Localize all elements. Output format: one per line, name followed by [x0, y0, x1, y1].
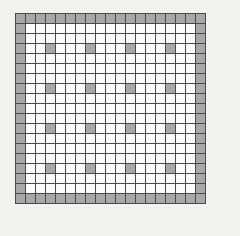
grid-cell-8-7[interactable]	[86, 94, 96, 104]
grid-cell-6-11[interactable]	[126, 74, 136, 84]
grid-cell-2-7[interactable]	[86, 34, 96, 44]
grid-cell-16-8[interactable]	[96, 174, 106, 184]
grid-cell-15-17[interactable]	[186, 164, 196, 174]
grid-cell-17-18[interactable]	[196, 184, 206, 194]
grid-cell-12-2[interactable]	[36, 134, 46, 144]
grid-cell-18-6[interactable]	[76, 194, 86, 204]
grid-cell-14-4[interactable]	[56, 154, 66, 164]
grid-cell-8-1[interactable]	[26, 94, 36, 104]
grid-cell-3-8[interactable]	[96, 44, 106, 54]
grid-cell-0-13[interactable]	[146, 14, 156, 24]
grid-cell-10-16[interactable]	[176, 114, 186, 124]
grid-cell-16-10[interactable]	[116, 174, 126, 184]
grid-cell-5-7[interactable]	[86, 64, 96, 74]
grid-cell-18-11[interactable]	[126, 194, 136, 204]
grid-cell-1-16[interactable]	[176, 24, 186, 34]
grid-cell-6-18[interactable]	[196, 74, 206, 84]
grid-cell-18-18[interactable]	[196, 194, 206, 204]
grid-cell-6-4[interactable]	[56, 74, 66, 84]
grid-cell-6-6[interactable]	[76, 74, 86, 84]
grid-cell-10-15[interactable]	[166, 114, 176, 124]
grid-cell-1-12[interactable]	[136, 24, 146, 34]
grid-cell-11-16[interactable]	[176, 124, 186, 134]
grid-cell-5-17[interactable]	[186, 64, 196, 74]
grid-cell-2-18[interactable]	[196, 34, 206, 44]
grid-cell-4-4[interactable]	[56, 54, 66, 64]
grid-cell-3-12[interactable]	[136, 44, 146, 54]
grid-cell-12-15[interactable]	[166, 134, 176, 144]
grid-cell-11-17[interactable]	[186, 124, 196, 134]
grid-cell-5-9[interactable]	[106, 64, 116, 74]
grid-cell-1-14[interactable]	[156, 24, 166, 34]
grid-cell-7-2[interactable]	[36, 84, 46, 94]
grid-cell-8-13[interactable]	[146, 94, 156, 104]
grid-cell-15-1[interactable]	[26, 164, 36, 174]
grid-cell-18-12[interactable]	[136, 194, 146, 204]
grid-cell-14-0[interactable]	[16, 154, 26, 164]
grid-cell-9-4[interactable]	[56, 104, 66, 114]
grid-cell-12-5[interactable]	[66, 134, 76, 144]
grid-cell-5-6[interactable]	[76, 64, 86, 74]
grid-cell-14-11[interactable]	[126, 154, 136, 164]
grid-cell-0-14[interactable]	[156, 14, 166, 24]
grid-cell-17-9[interactable]	[106, 184, 116, 194]
grid-cell-17-8[interactable]	[96, 184, 106, 194]
grid-cell-2-6[interactable]	[76, 34, 86, 44]
grid-cell-16-2[interactable]	[36, 174, 46, 184]
grid-cell-6-0[interactable]	[16, 74, 26, 84]
grid-cell-0-5[interactable]	[66, 14, 76, 24]
grid-cell-7-8[interactable]	[96, 84, 106, 94]
grid-cell-6-10[interactable]	[116, 74, 126, 84]
grid-cell-10-0[interactable]	[16, 114, 26, 124]
grid-cell-14-10[interactable]	[116, 154, 126, 164]
grid-cell-4-2[interactable]	[36, 54, 46, 64]
grid-cell-11-3[interactable]	[46, 124, 56, 134]
grid-cell-13-13[interactable]	[146, 144, 156, 154]
grid-cell-2-1[interactable]	[26, 34, 36, 44]
grid-cell-18-17[interactable]	[186, 194, 196, 204]
grid-cell-16-14[interactable]	[156, 174, 166, 184]
grid-cell-14-16[interactable]	[176, 154, 186, 164]
grid-cell-4-11[interactable]	[126, 54, 136, 64]
grid-cell-10-10[interactable]	[116, 114, 126, 124]
grid-cell-16-6[interactable]	[76, 174, 86, 184]
grid-cell-8-15[interactable]	[166, 94, 176, 104]
grid-cell-11-5[interactable]	[66, 124, 76, 134]
grid-cell-12-14[interactable]	[156, 134, 166, 144]
grid-cell-14-14[interactable]	[156, 154, 166, 164]
grid-cell-13-17[interactable]	[186, 144, 196, 154]
grid-cell-18-5[interactable]	[66, 194, 76, 204]
grid-cell-7-3[interactable]	[46, 84, 56, 94]
grid-cell-13-12[interactable]	[136, 144, 146, 154]
grid-cell-4-6[interactable]	[76, 54, 86, 64]
grid-cell-0-10[interactable]	[116, 14, 126, 24]
grid-cell-5-10[interactable]	[116, 64, 126, 74]
grid-cell-15-5[interactable]	[66, 164, 76, 174]
grid-cell-16-5[interactable]	[66, 174, 76, 184]
grid-cell-16-13[interactable]	[146, 174, 156, 184]
grid-cell-4-5[interactable]	[66, 54, 76, 64]
grid-cell-7-14[interactable]	[156, 84, 166, 94]
grid-cell-15-15[interactable]	[166, 164, 176, 174]
grid-cell-14-17[interactable]	[186, 154, 196, 164]
grid-cell-11-12[interactable]	[136, 124, 146, 134]
grid-cell-10-4[interactable]	[56, 114, 66, 124]
grid-cell-1-3[interactable]	[46, 24, 56, 34]
grid-cell-9-8[interactable]	[96, 104, 106, 114]
grid-cell-12-7[interactable]	[86, 134, 96, 144]
grid-cell-2-11[interactable]	[126, 34, 136, 44]
grid-cell-1-18[interactable]	[196, 24, 206, 34]
grid-cell-15-9[interactable]	[106, 164, 116, 174]
grid-cell-7-17[interactable]	[186, 84, 196, 94]
grid-cell-16-4[interactable]	[56, 174, 66, 184]
grid-cell-13-2[interactable]	[36, 144, 46, 154]
grid-cell-13-1[interactable]	[26, 144, 36, 154]
grid-cell-9-6[interactable]	[76, 104, 86, 114]
grid-cell-17-13[interactable]	[146, 184, 156, 194]
grid-cell-1-0[interactable]	[16, 24, 26, 34]
grid-cell-15-16[interactable]	[176, 164, 186, 174]
grid-cell-3-3[interactable]	[46, 44, 56, 54]
grid-cell-4-7[interactable]	[86, 54, 96, 64]
grid-cell-4-9[interactable]	[106, 54, 116, 64]
grid-cell-8-14[interactable]	[156, 94, 166, 104]
